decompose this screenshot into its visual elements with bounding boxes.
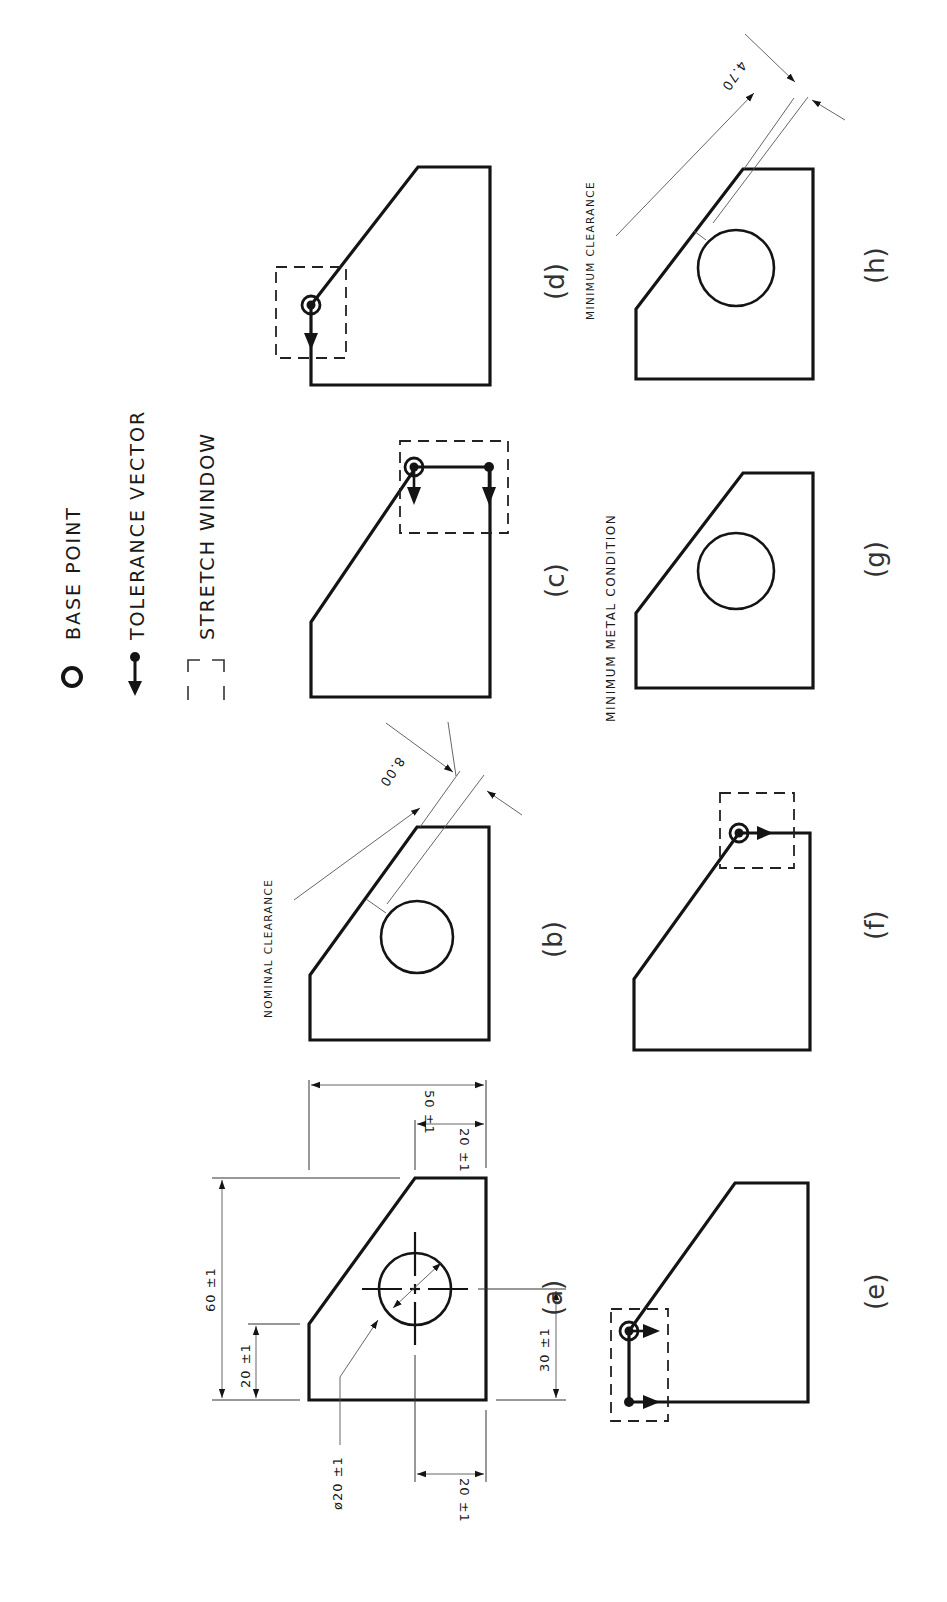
part-label: (a)	[538, 1280, 568, 1316]
legend-item-base-point: BASE POINT	[62, 506, 84, 686]
vector-origin	[624, 1397, 634, 1407]
part-c: (c)	[311, 441, 570, 697]
part-outline	[311, 167, 490, 385]
part-label: (c)	[540, 563, 570, 598]
dim-hole-diameter: ø20 ±1	[330, 1456, 345, 1510]
clearance-note: NOMINAL CLEARANCE	[262, 879, 274, 1018]
legend-item-tolerance-vector: TOLERANCE VECTOR	[126, 410, 148, 696]
part-label: (b)	[538, 921, 568, 958]
tolerance-stackup-drawing: BASE POINT TOLERANCE VECTOR STRETCH WIND…	[0, 0, 947, 1602]
part-label: (h)	[860, 247, 890, 284]
dim-hole-from-left-value: 20 ±1	[457, 1478, 472, 1523]
part-label: (d)	[540, 263, 570, 300]
part-outline	[636, 169, 813, 379]
dim-chamfer-width-value: 20 ±1	[457, 1128, 472, 1173]
stretch-window-icon	[188, 660, 224, 700]
stretch-window	[611, 1309, 668, 1421]
part-e: (e)	[611, 1183, 890, 1421]
hole	[698, 230, 774, 306]
clearance-value: 8.00	[377, 754, 408, 790]
dim-chamfer-height-value: 20 ±1	[238, 1343, 253, 1388]
part-outline	[311, 467, 490, 697]
part-b: 8.00 NOMINAL CLEARANCE (b)	[262, 722, 568, 1040]
condition-note: MINIMUM METAL CONDITION	[604, 514, 618, 722]
tolerance-vector	[304, 333, 318, 350]
dim-hole-from-left	[415, 1355, 486, 1482]
part-outline	[310, 827, 489, 1040]
clearance-dimension	[616, 34, 845, 240]
part-a: ø20 ±1 60 ±1 20 ±1 30 ±1 20 ±1	[203, 1080, 568, 1523]
tolerance-vector	[407, 471, 496, 505]
dim-chamfer-height	[248, 1324, 300, 1398]
part-label: (f)	[860, 911, 890, 940]
dim-overall-height-value: 60 ±1	[203, 1267, 218, 1312]
part-h: 4.70 MINIMUM CLEARANCE (h)	[584, 34, 890, 379]
part-d: (d)	[276, 167, 570, 385]
part-outline	[636, 473, 813, 688]
part-outline	[629, 1183, 808, 1402]
legend-item-stretch-window: STRETCH WINDOW	[188, 432, 224, 700]
part-f: (f)	[634, 793, 890, 1050]
legend-label: TOLERANCE VECTOR	[126, 410, 148, 641]
part-label: (g)	[860, 541, 890, 578]
tolerance-vector-icon	[128, 652, 142, 696]
legend-label: STRETCH WINDOW	[196, 432, 218, 640]
part-outline	[634, 833, 810, 1050]
hole	[698, 533, 774, 609]
tolerance-vector	[757, 826, 773, 840]
part-g: MINIMUM METAL CONDITION (g)	[604, 473, 890, 722]
dim-hole-from-bottom-value: 30 ±1	[537, 1327, 552, 1372]
diameter-leader	[340, 1263, 441, 1445]
part-label: (e)	[860, 1274, 890, 1310]
vector-origin	[484, 462, 494, 472]
base-point-icon	[63, 668, 81, 686]
legend: BASE POINT TOLERANCE VECTOR STRETCH WIND…	[62, 410, 224, 700]
center-mark	[362, 1232, 468, 1345]
clearance-value: 4.70	[719, 58, 750, 94]
dim-overall-width-value: 50 ±1	[422, 1090, 437, 1135]
hole	[381, 901, 453, 973]
clearance-note: MINIMUM CLEARANCE	[584, 181, 596, 320]
legend-label: BASE POINT	[62, 506, 84, 640]
